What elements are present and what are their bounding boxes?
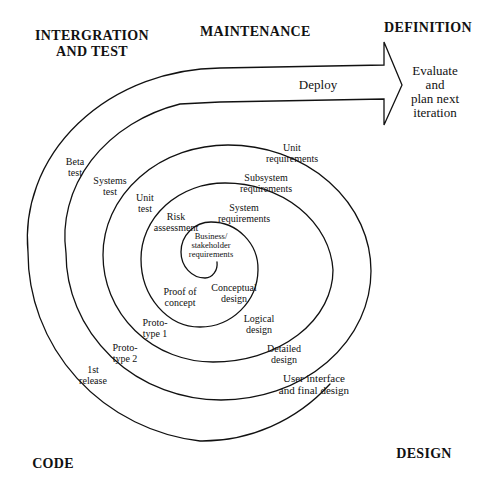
label-prototype-2: Proto- type 2 bbox=[108, 342, 142, 364]
proto1-line2: type 1 bbox=[138, 328, 172, 339]
label-unit-test: Unit test bbox=[130, 192, 160, 214]
phase-integration-test: INTERGRATION AND TEST bbox=[22, 28, 162, 60]
proto2-line2: type 2 bbox=[108, 353, 142, 364]
beta-line1: Beta bbox=[62, 156, 88, 167]
label-prototype-1: Proto- type 1 bbox=[138, 317, 172, 339]
proto2-line1: Proto- bbox=[108, 342, 142, 353]
evaluate-line3: plan next bbox=[400, 92, 470, 106]
label-system-requirements: System requirements bbox=[214, 202, 274, 224]
deploy-label: Deploy bbox=[293, 78, 343, 92]
beta-line2: test bbox=[62, 167, 88, 178]
system-req-line2: requirements bbox=[214, 213, 274, 224]
label-beta-test: Beta test bbox=[62, 156, 88, 178]
evaluate-plan-text: Evaluate and plan next iteration bbox=[400, 64, 470, 120]
proof-line1: Proof of bbox=[156, 286, 204, 297]
evaluate-line2: and bbox=[400, 78, 470, 92]
phase-integration-line1: INTERGRATION bbox=[22, 28, 162, 44]
ui-design-line2: and final design bbox=[278, 384, 350, 396]
label-systems-test: Systems test bbox=[90, 175, 130, 197]
phase-maintenance: MAINTENANCE bbox=[200, 24, 310, 40]
release-line1: 1st bbox=[76, 364, 110, 375]
evaluate-line4: iteration bbox=[400, 106, 470, 120]
phase-integration-line2: AND TEST bbox=[22, 44, 162, 60]
phase-design: DESIGN bbox=[392, 446, 456, 462]
detailed-line1: Detailed bbox=[262, 343, 306, 354]
system-req-line1: System bbox=[214, 202, 274, 213]
release-line2: release bbox=[76, 375, 110, 386]
logical-line1: Logical bbox=[238, 313, 280, 324]
subsystem-line2: requirements bbox=[236, 183, 296, 194]
business-line3: requirements bbox=[186, 250, 236, 259]
systems-test-line2: test bbox=[90, 186, 130, 197]
proto1-line1: Proto- bbox=[138, 317, 172, 328]
conceptual-line1: Conceptual bbox=[208, 282, 260, 293]
systems-test-line1: Systems bbox=[90, 175, 130, 186]
unit-req-line2: requirements bbox=[262, 153, 322, 164]
risk-line2: assessment bbox=[150, 222, 202, 233]
subsystem-line1: Subsystem bbox=[236, 172, 296, 183]
unit-test-line1: Unit bbox=[130, 192, 160, 203]
label-proof-of-concept: Proof of concept bbox=[156, 286, 204, 308]
label-conceptual-design: Conceptual design bbox=[208, 282, 260, 304]
evaluate-line1: Evaluate bbox=[400, 64, 470, 78]
detailed-line2: design bbox=[262, 354, 306, 365]
unit-test-line2: test bbox=[130, 203, 160, 214]
unit-req-line1: Unit bbox=[262, 142, 322, 153]
phase-code: CODE bbox=[28, 456, 78, 472]
label-detailed-design: Detailed design bbox=[262, 343, 306, 365]
logical-line2: design bbox=[238, 324, 280, 335]
label-risk-assessment: Risk assessment bbox=[150, 211, 202, 233]
proof-line2: concept bbox=[156, 297, 204, 308]
label-subsystem-requirements: Subsystem requirements bbox=[236, 172, 296, 194]
conceptual-line2: design bbox=[208, 293, 260, 304]
phase-definition: DEFINITION bbox=[378, 20, 478, 36]
label-ui-final-design: User interface and final design bbox=[278, 372, 350, 396]
ui-design-line1: User interface bbox=[278, 372, 350, 384]
label-business-requirements: Business/ stakeholder requirements bbox=[186, 232, 236, 259]
label-unit-requirements: Unit requirements bbox=[262, 142, 322, 164]
label-first-release: 1st release bbox=[76, 364, 110, 386]
label-logical-design: Logical design bbox=[238, 313, 280, 335]
